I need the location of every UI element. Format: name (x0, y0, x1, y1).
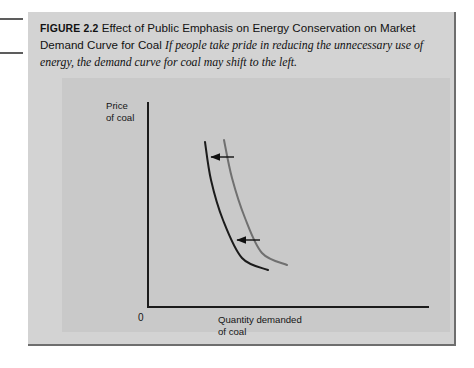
demand-curve-1 (205, 142, 268, 270)
figure-number: FIGURE 2.2 (40, 23, 99, 34)
page-edge-rule-top (0, 18, 23, 20)
figure-caption: FIGURE 2.2 Effect of Public Emphasis on … (40, 20, 442, 70)
figure-panel: FIGURE 2.2 Effect of Public Emphasis on … (28, 12, 456, 346)
page-edge-rule-bottom (0, 52, 23, 54)
demand-curves-svg (62, 78, 450, 332)
chart-plot-area: Price of coal Quantity demanded of coal … (62, 78, 450, 332)
